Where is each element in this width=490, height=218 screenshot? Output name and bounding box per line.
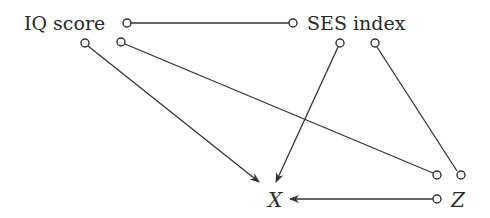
endpoint-circle-icon	[371, 39, 379, 47]
endpoint-circle-icon	[336, 39, 344, 47]
node-x-label: X	[266, 188, 283, 212]
endpoint-circle-icon	[123, 19, 131, 27]
edge-iq-to-x	[88, 46, 259, 182]
node-iq-score-label: IQ score	[24, 12, 105, 34]
edge-ses-z	[377, 47, 457, 171]
endpoint-circle-icon	[81, 39, 89, 47]
endpoint-circle-icon	[117, 38, 125, 46]
causal-diagram: IQ score SES index X Z	[0, 0, 490, 218]
endpoint-circle-icon	[433, 195, 441, 203]
endpoint-circle-icon	[289, 19, 297, 27]
node-ses-index-label: SES index	[307, 12, 406, 34]
endpoint-circle-icon	[457, 171, 465, 179]
node-z-label: Z	[450, 188, 466, 212]
edge-ses-to-x	[276, 47, 338, 182]
endpoint-circle-icon	[433, 171, 441, 179]
